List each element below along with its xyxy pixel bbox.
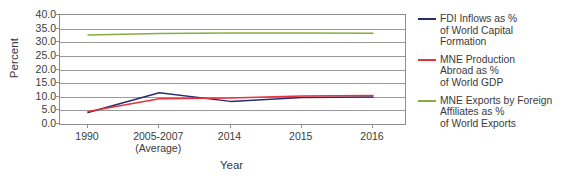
x-axis-tick-label-main: 2015 [289, 130, 312, 142]
legend-label: MNE Production Abroad as % of World GDP [440, 54, 515, 89]
x-axis-tick-label-main: 2016 [360, 130, 383, 142]
y-axis-tick-mark [55, 14, 59, 15]
y-axis-tick-mark [55, 96, 59, 97]
y-axis-tick-label: 20.0 [16, 64, 56, 75]
y-axis-tick-labels: 40.035.030.025.020.015.010.05.00.0 [16, 0, 56, 182]
x-axis-tick-mark [87, 124, 88, 128]
y-axis-tick-mark [55, 55, 59, 56]
y-axis-tick-mark [55, 123, 59, 124]
y-axis-tick-mark [55, 109, 59, 110]
x-axis-tick-mark [301, 124, 302, 128]
legend-entry[interactable]: MNE Production Abroad as % of World GDP [418, 54, 573, 89]
x-axis-tick-mark [372, 124, 373, 128]
legend-color-swatch [418, 18, 436, 20]
y-axis-tick-mark [55, 82, 59, 83]
chart-legend: FDI Inflows as % of World Capital Format… [418, 13, 573, 135]
y-axis-tick-label: 5.0 [16, 104, 56, 115]
x-axis-tick-label-sub: (Average) [133, 142, 183, 155]
x-axis-tick-label: 2015 [289, 130, 312, 142]
x-axis-tick-label: 2016 [360, 130, 383, 142]
legend-color-swatch [418, 59, 436, 61]
y-axis-tick-label: 30.0 [16, 36, 56, 47]
y-axis-tick-label: 0.0 [16, 118, 56, 129]
x-axis-tick-label-main: 1990 [75, 130, 98, 142]
y-axis-tick-label: 40.0 [16, 9, 56, 20]
x-axis-tick-label: 2005-2007(Average) [133, 130, 183, 155]
legend-label: MNE Exports by Foreign Affiliates as % o… [440, 95, 552, 130]
legend-color-swatch [418, 100, 436, 102]
plot-area [59, 14, 406, 125]
y-axis-tick-label: 35.0 [16, 23, 56, 34]
chart-figure: Percent 40.035.030.025.020.015.010.05.00… [0, 0, 573, 182]
y-axis-tick-label: 25.0 [16, 50, 56, 61]
y-axis-tick-label: 15.0 [16, 77, 56, 88]
x-axis-title: Year [59, 159, 404, 171]
x-axis-tick-mark [158, 124, 159, 128]
legend-entry[interactable]: MNE Exports by Foreign Affiliates as % o… [418, 95, 573, 130]
legend-entry[interactable]: FDI Inflows as % of World Capital Format… [418, 13, 573, 48]
x-axis-tick-label-main: 2005-2007 [133, 130, 183, 142]
y-axis-tick-mark [55, 28, 59, 29]
y-axis-tick-mark [55, 69, 59, 70]
x-axis-tick-label: 2014 [218, 130, 241, 142]
x-axis-tick-label-main: 2014 [218, 130, 241, 142]
x-axis-tick-label: 1990 [75, 130, 98, 142]
series-line [88, 33, 373, 35]
series-lines [60, 15, 405, 124]
y-axis-tick-mark [55, 41, 59, 42]
legend-label: FDI Inflows as % of World Capital Format… [440, 13, 517, 48]
y-axis-tick-label: 10.0 [16, 91, 56, 102]
x-axis-tick-mark [230, 124, 231, 128]
